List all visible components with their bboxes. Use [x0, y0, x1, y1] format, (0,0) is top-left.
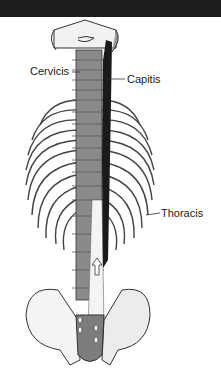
- spinalis-muscle: [102, 40, 112, 268]
- pelvis: [26, 289, 150, 365]
- vertebral-column: [72, 50, 104, 330]
- label-thoracis: Thoracis: [161, 207, 203, 219]
- label-capitis: Capitis: [127, 73, 161, 85]
- spine-illustration: [0, 0, 221, 380]
- label-cervicis: Cervicis: [30, 65, 69, 77]
